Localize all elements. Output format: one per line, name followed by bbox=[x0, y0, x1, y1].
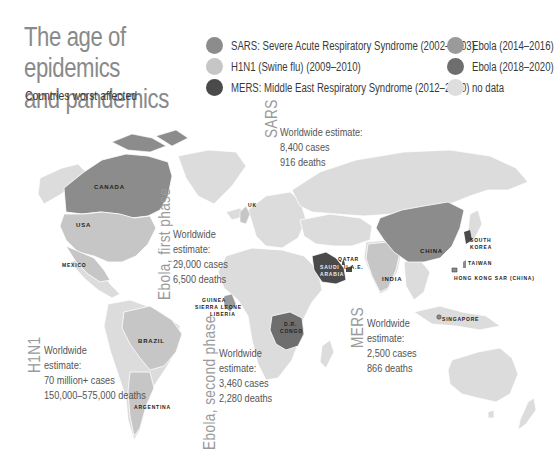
annotation-line: estimate: bbox=[44, 358, 146, 373]
region-madagascar bbox=[320, 340, 334, 368]
country-label-qatar: QATAR bbox=[338, 256, 359, 262]
country-label-south: SOUTH bbox=[470, 237, 492, 243]
annotation-ebola-first: Worldwide estimate: 29,000 cases 6,500 d… bbox=[173, 227, 228, 287]
annotation-tag-ebola-second: Ebola, second phase bbox=[200, 315, 220, 450]
annotation-line: 3,460 cases bbox=[219, 376, 272, 391]
country-label-singapore: SINGAPORE bbox=[442, 316, 479, 322]
annotation-line: 8,400 cases bbox=[280, 140, 363, 155]
annotation-line: Worldwide estimate: bbox=[280, 125, 363, 140]
region-greenland bbox=[178, 150, 246, 204]
annotation-mers: Worldwide estimate: 2,500 cases 866 deat… bbox=[367, 316, 417, 376]
annotation-line: 29,000 cases bbox=[173, 257, 228, 272]
annotation-h1n1: Worldwide estimate: 70 million+ cases 15… bbox=[44, 343, 146, 403]
annotation-line: 2,500 cases bbox=[367, 346, 417, 361]
country-label-congo: CONGO bbox=[280, 328, 303, 334]
annotation-line: 866 deaths bbox=[367, 361, 417, 376]
country-label-sierra-leone: SIERRA LEONE bbox=[195, 304, 242, 310]
annotation-line: Worldwide bbox=[219, 346, 272, 361]
annotation-line: estimate: bbox=[219, 361, 272, 376]
country-label-guinea: GUINEA bbox=[202, 297, 226, 303]
annotation-tag-ebola-first: Ebola, first phase bbox=[155, 188, 175, 300]
country-label-canada: CANADA bbox=[94, 184, 125, 190]
region-new-zealand bbox=[518, 398, 536, 430]
annotation-line: 70 million+ cases bbox=[44, 373, 146, 388]
region-singapore bbox=[437, 315, 441, 319]
region-se-asia bbox=[404, 260, 430, 300]
region-uk bbox=[240, 206, 250, 224]
annotation-line: Worldwide bbox=[173, 227, 228, 242]
region-hong-kong bbox=[452, 268, 457, 272]
annotation-tag-sars: SARS bbox=[262, 99, 282, 138]
annotation-tag-mers: MERS bbox=[348, 307, 368, 348]
country-label-taiwan: TAIWAN bbox=[468, 260, 492, 266]
annotation-line: 2,280 deaths bbox=[219, 391, 272, 406]
region-tasmania bbox=[488, 410, 494, 418]
country-label-hong-kong: HONG KONG SAR (CHINA) bbox=[454, 275, 535, 281]
country-label-dr: D.R. bbox=[284, 321, 297, 327]
country-label-saudi: SAUDI bbox=[320, 264, 340, 270]
annotation-tag-h1n1: H1N1 bbox=[25, 337, 45, 373]
country-label-usa: USA bbox=[76, 222, 91, 228]
annotation-sars: Worldwide estimate: 8,400 cases 916 deat… bbox=[280, 125, 363, 170]
country-label-uk: UK bbox=[248, 202, 257, 208]
country-label-india: INDIA bbox=[382, 276, 402, 282]
region-taiwan bbox=[463, 260, 466, 268]
country-label-arabia: ARABIA bbox=[320, 271, 344, 277]
annotation-line: Worldwide bbox=[367, 316, 417, 331]
region-central-asia bbox=[300, 214, 372, 246]
region-australia bbox=[448, 348, 518, 402]
country-label-uae: U.A.E. bbox=[344, 264, 364, 270]
annotation-line: 150,000–575,000 deaths bbox=[44, 388, 146, 403]
annotation-line: estimate: bbox=[367, 331, 417, 346]
country-label-korea: KOREA bbox=[470, 244, 492, 250]
country-label-argentina: ARGENTINA bbox=[134, 404, 171, 410]
annotation-line: 916 deaths bbox=[280, 155, 363, 170]
annotation-ebola-second: Worldwide estimate: 3,460 cases 2,280 de… bbox=[219, 346, 272, 406]
annotation-line: estimate: bbox=[173, 242, 228, 257]
annotation-line: Worldwide bbox=[44, 343, 146, 358]
annotation-line: 6,500 deaths bbox=[173, 272, 228, 287]
country-label-china: CHINA bbox=[420, 248, 443, 254]
country-label-mexico: MEXICO bbox=[62, 262, 87, 268]
